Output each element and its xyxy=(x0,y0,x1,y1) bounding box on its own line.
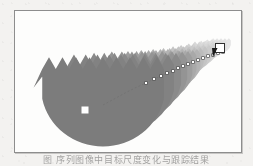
track-point-11 xyxy=(187,63,190,66)
end-marker xyxy=(216,44,225,53)
track-point-14 xyxy=(202,57,205,60)
scanned-page: 图 序列图像中目标尺度变化与跟踪结果 xyxy=(0,0,253,166)
track-point-13 xyxy=(197,59,200,62)
track-point-09 xyxy=(177,67,180,70)
start-marker xyxy=(82,107,89,114)
track-point-12 xyxy=(192,61,195,64)
figure-caption: 图 序列图像中目标尺度变化与跟踪结果 xyxy=(0,155,253,166)
track-point-05 xyxy=(153,78,156,81)
figure-canvas xyxy=(15,11,241,152)
track-point-04 xyxy=(145,82,148,85)
track-point-15 xyxy=(207,55,210,58)
figure-frame xyxy=(14,10,242,153)
track-point-08 xyxy=(172,70,175,73)
track-point-10 xyxy=(182,65,185,68)
track-point-07 xyxy=(166,72,169,75)
track-point-06 xyxy=(160,75,163,78)
